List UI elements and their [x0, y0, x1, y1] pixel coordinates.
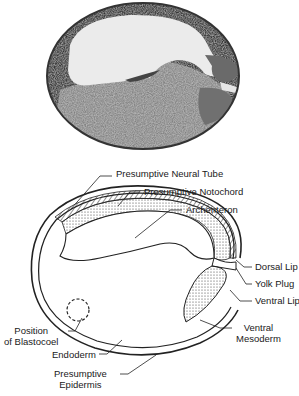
gastrula-micrograph [0, 0, 299, 160]
label-presumptive-epidermis: Presumptive Epidermis [54, 368, 107, 390]
label-presumptive-notochord: Presumptive Notochord [144, 186, 243, 197]
label-ventral-mesoderm: Ventral Mesoderm [236, 322, 281, 344]
label-ventral-lip: Ventral Lip [255, 295, 299, 306]
label-position-of-blastocoel: Position of Blastocoel [4, 325, 58, 347]
label-dorsal-lip: Dorsal Lip [255, 261, 298, 272]
label-archenteron: Archenteron [186, 204, 238, 215]
gastrula-diagram: Presumptive Neural Tube Presumptive Noto… [0, 160, 299, 396]
ventral-mesoderm [184, 266, 227, 322]
label-endoderm: Endoderm [52, 349, 96, 360]
blastocoel-position [67, 299, 89, 321]
label-presumptive-neural-tube: Presumptive Neural Tube [116, 168, 223, 179]
label-yolk-plug: Yolk Plug [255, 278, 294, 289]
